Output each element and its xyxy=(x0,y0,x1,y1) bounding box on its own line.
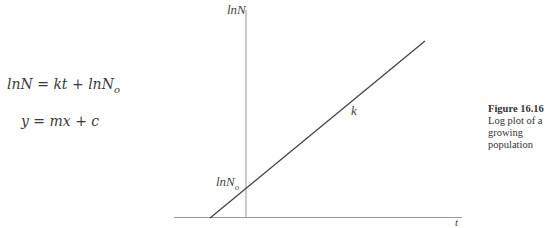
intercept-label-main: lnN xyxy=(216,174,235,189)
caption-line-1: Log plot of a xyxy=(488,115,559,127)
slope-label: k xyxy=(351,103,357,119)
x-axis-label: t xyxy=(455,216,458,228)
y-axis-label: lnN xyxy=(227,2,246,18)
intercept-label-subscript: o xyxy=(235,182,240,192)
caption-line-2: growing population xyxy=(488,127,559,151)
intercept-label: lnNo xyxy=(216,174,239,192)
figure-number: Figure 16.16 xyxy=(488,103,559,115)
log-plot-diagram xyxy=(0,0,559,228)
growth-line xyxy=(210,41,425,218)
figure-caption: Figure 16.16 Log plot of a growing popul… xyxy=(488,103,559,151)
